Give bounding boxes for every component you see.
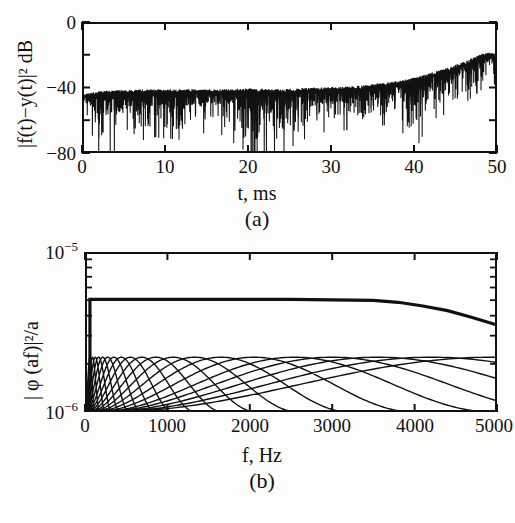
panel-b-curves [85, 299, 515, 412]
panel-b: 10−5 10−6 0 1000 2000 3000 4000 5000 f, … [0, 240, 515, 523]
panel-b-caption: (b) [249, 468, 275, 494]
panel-a-xtick-30: 30 [322, 157, 341, 176]
panel-a-error-trace [82, 53, 497, 153]
panel-b-xaxis-label: f, Hz [242, 444, 282, 467]
panel-a-xtick-40: 40 [405, 157, 424, 176]
panel-a-xtick-50: 50 [488, 157, 507, 176]
panel-a-yaxis-label: |f(t)−y(t)|² dB [14, 40, 37, 148]
panel-a-ytick-0: 0 [34, 13, 76, 32]
panel-b-xtick-2000: 2000 [231, 416, 269, 435]
panel-a-xtick-20: 20 [239, 157, 258, 176]
panel-b-xtick-3000: 3000 [313, 416, 351, 435]
panel-b-xtick-1000: 1000 [148, 416, 186, 435]
panel-a-xaxis-label: t, ms [238, 182, 277, 205]
panel-b-xtick-5000: 5000 [475, 416, 513, 435]
panel-a: 0 −40 −80 0 10 20 30 40 50 t, ms |f(t)−y… [0, 0, 515, 240]
figure-root: 0 −40 −80 0 10 20 30 40 50 t, ms |f(t)−y… [0, 0, 515, 523]
panel-a-ytick-80: −80 [34, 144, 76, 163]
panel-b-ytick-1e-6: 10−6 [22, 403, 78, 422]
panel-a-xtick-10: 10 [156, 157, 175, 176]
panel-a-caption: (a) [245, 206, 269, 232]
panel-a-ytick-40: −40 [34, 78, 76, 97]
panel-b-xtick-4000: 4000 [396, 416, 434, 435]
panel-a-xtick-0: 0 [77, 157, 87, 176]
panel-b-xtick-0: 0 [80, 416, 90, 435]
panel-b-yaxis-label: | φ (af)|²/a [20, 321, 43, 400]
panel-b-ytick-1e-5: 10−5 [22, 243, 78, 262]
panel-b-log-minor-ticks [85, 259, 497, 364]
